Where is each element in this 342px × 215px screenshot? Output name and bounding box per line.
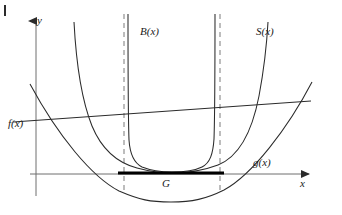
label-axis-y: y <box>37 15 42 26</box>
label-feasible-set-G: G <box>162 178 170 189</box>
label-curve-g: g(x) <box>253 157 271 168</box>
label-curve-f: f(x) <box>8 118 23 129</box>
figure-canvas: B(x) S(x) f(x) g(x) G x y <box>0 0 342 215</box>
curve-g <box>30 82 312 202</box>
label-axis-x: x <box>300 178 305 189</box>
curve-f <box>13 101 311 122</box>
dashed-boundaries-group <box>124 14 220 190</box>
curve-b-right <box>172 14 215 172</box>
plot-svg <box>0 0 342 215</box>
label-curve-S: S(x) <box>256 26 274 37</box>
curve-b-left <box>128 14 172 172</box>
curve-s-left <box>74 22 172 173</box>
axes-group <box>30 21 309 196</box>
label-curve-B: B(x) <box>140 26 159 37</box>
